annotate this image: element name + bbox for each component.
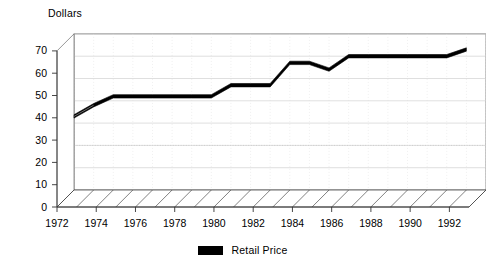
- x-axis-tick-label: 1974: [79, 218, 113, 229]
- legend-item-label: Retail Price: [231, 244, 287, 256]
- x-axis-tick-label: 1978: [158, 218, 192, 229]
- x-axis-tick-label: 1972: [40, 218, 74, 229]
- y-axis-tick-label: 20: [21, 157, 47, 167]
- y-axis-tick-label: 70: [21, 45, 47, 55]
- y-axis-title: Dollars: [48, 7, 82, 19]
- chart-legend: Retail Price: [0, 243, 486, 256]
- y-axis-tick-label: 10: [21, 179, 47, 189]
- line-chart-plot: [0, 0, 486, 272]
- y-axis-tick-label: 50: [21, 90, 47, 100]
- y-axis-tick-label: 60: [21, 68, 47, 78]
- y-axis-tick-label: 0: [21, 202, 47, 212]
- x-axis-tick-label: 1986: [315, 218, 349, 229]
- y-axis-tick-label: 30: [21, 135, 47, 145]
- x-axis-tick-label: 1988: [354, 218, 388, 229]
- y-axis-tick-label: 40: [21, 112, 47, 122]
- x-axis-tick-label: 1990: [393, 218, 427, 229]
- x-axis-tick-label: 1984: [275, 218, 309, 229]
- legend-item-retail-price: Retail Price: [198, 243, 287, 256]
- x-axis-tick-label: 1980: [197, 218, 231, 229]
- chart-container: Dollars 010203040506070 1972197419761978…: [0, 0, 486, 272]
- x-axis-tick-label: 1992: [432, 218, 466, 229]
- x-axis-tick-label: 1976: [118, 218, 152, 229]
- legend-swatch-icon: [198, 246, 223, 255]
- x-axis-tick-label: 1982: [236, 218, 270, 229]
